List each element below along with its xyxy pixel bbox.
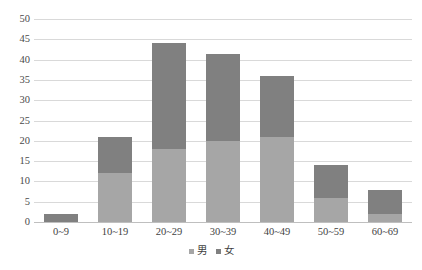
y-tick-label: 15: [4, 156, 30, 167]
y-tick-label: 0: [4, 217, 30, 228]
y-tick-label: 50: [4, 14, 30, 25]
bar-segment-male: [152, 149, 186, 222]
x-tick-label: 60~69: [372, 226, 399, 239]
y-tick-label: 30: [4, 95, 30, 106]
x-tick-label: 20~29: [156, 226, 183, 239]
bar-segment-male: [368, 214, 402, 222]
bar-group: [206, 19, 240, 222]
bar-segment-female: [206, 54, 240, 141]
x-tick-label: 0~9: [53, 226, 69, 239]
bar-group: [260, 19, 294, 222]
bar-segment-female: [260, 76, 294, 137]
x-tick-label: 50~59: [318, 226, 345, 239]
plot-area: [34, 19, 412, 222]
y-tick-label: 20: [4, 136, 30, 147]
y-axis: 05101520253035404550: [0, 19, 30, 222]
y-tick-label: 25: [4, 115, 30, 126]
y-tick-label: 35: [4, 75, 30, 86]
bar-segment-male: [98, 173, 132, 222]
bar-group: [314, 19, 348, 222]
bar-group: [152, 19, 186, 222]
bar-group: [368, 19, 402, 222]
x-axis: 0~910~1920~2930~3940~4950~5960~69: [34, 226, 412, 244]
legend-swatch-icon: [189, 249, 194, 254]
legend-label: 男: [197, 246, 207, 257]
legend-swatch-icon: [216, 249, 221, 254]
bar-segment-female: [368, 190, 402, 214]
x-tick-label: 30~39: [210, 226, 237, 239]
bar-segment-female: [98, 137, 132, 174]
legend-item[interactable]: 男: [189, 246, 207, 257]
bar-group: [98, 19, 132, 222]
bar-segment-female: [314, 165, 348, 197]
bar-segment-male: [206, 141, 240, 222]
bar-segment-female: [44, 214, 78, 222]
bar-group: [44, 19, 78, 222]
y-tick-label: 45: [4, 34, 30, 45]
bar-segment-male: [314, 198, 348, 222]
legend-label: 女: [224, 246, 234, 257]
x-tick-label: 40~49: [264, 226, 291, 239]
bar-segment-male: [260, 137, 294, 222]
chart-legend: 男女: [0, 246, 422, 257]
stacked-bar-chart: 05101520253035404550 0~910~1920~2930~394…: [0, 0, 422, 270]
y-tick-label: 5: [4, 196, 30, 207]
gridline: [34, 222, 412, 223]
x-tick-label: 10~19: [102, 226, 129, 239]
y-tick-label: 40: [4, 54, 30, 65]
bars-layer: [34, 19, 412, 222]
bar-segment-female: [152, 43, 186, 149]
legend-item[interactable]: 女: [216, 246, 234, 257]
y-tick-label: 10: [4, 176, 30, 187]
